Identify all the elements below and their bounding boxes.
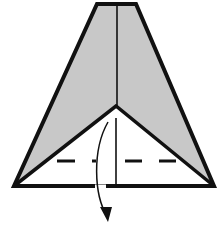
arrowhead-icon	[100, 207, 112, 222]
origami-diagram	[0, 0, 223, 229]
